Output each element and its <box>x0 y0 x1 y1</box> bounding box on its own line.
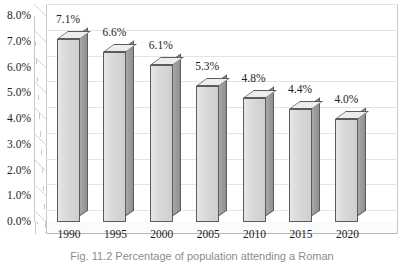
y-axis-tick-label: 6.0% <box>0 62 31 73</box>
bar-chart: 8.0%7.0%6.0%5.0%4.0%3.0%2.0%1.0%0.0% 7.1… <box>0 0 404 247</box>
y-axis-tick-label: 5.0% <box>0 87 31 98</box>
y-axis-tick-label: 8.0% <box>0 10 31 21</box>
bar-front-face <box>57 39 80 222</box>
axis-depth-tick <box>34 4 46 16</box>
axis-depth-tick <box>34 133 46 145</box>
bar-value-label: 4.0% <box>334 94 358 105</box>
bar-front-face <box>335 119 358 222</box>
bar-side-face <box>80 28 88 216</box>
axis-depth-tick <box>34 210 46 222</box>
bar-side-face <box>126 41 134 216</box>
x-axis-tick-label: 2015 <box>278 228 324 240</box>
bar-front-face <box>196 86 219 222</box>
bar-value-label: 4.4% <box>288 84 312 95</box>
axis-depth-tick <box>34 159 46 171</box>
y-axis-tick-label: 3.0% <box>0 139 31 150</box>
x-axis-tick-label: 1990 <box>46 228 92 240</box>
bar-column[interactable] <box>196 0 219 222</box>
bar-side-face <box>266 87 274 216</box>
y-axis-tick-label: 1.0% <box>0 190 31 201</box>
x-axis-tick-label: 2000 <box>139 228 185 240</box>
bar-column[interactable] <box>289 0 312 222</box>
x-axis-tick-label: 2005 <box>185 228 231 240</box>
axis-depth-tick <box>34 30 46 42</box>
bar-column[interactable] <box>150 0 173 222</box>
y-axis-tick-label: 4.0% <box>0 113 31 124</box>
y-axis-tick-label: 0.0% <box>0 216 31 227</box>
bar-front-face <box>103 52 126 222</box>
y-axis-tick-label: 7.0% <box>0 36 31 47</box>
bar-front-face <box>243 98 266 222</box>
bar-value-label: 7.1% <box>56 14 80 25</box>
axis-depth-tick <box>34 81 46 93</box>
x-axis-tick-label: 2020 <box>324 228 370 240</box>
figure-caption: Fig. 11.2 Percentage of population atten… <box>0 250 404 265</box>
bar-column[interactable] <box>57 0 80 222</box>
bar-column[interactable] <box>335 0 358 222</box>
bar-side-face <box>312 97 320 216</box>
bar-value-label: 6.1% <box>149 40 173 51</box>
figure: 8.0%7.0%6.0%5.0%4.0%3.0%2.0%1.0%0.0% 7.1… <box>0 0 404 265</box>
axis-depth-tick <box>34 184 46 196</box>
bar-column[interactable] <box>243 0 266 222</box>
y-axis-tick-label: 2.0% <box>0 165 31 176</box>
bar-side-face <box>219 74 227 216</box>
axis-depth-tick <box>34 107 46 119</box>
axis-depth-tick <box>34 56 46 68</box>
bar-value-label: 4.8% <box>242 73 266 84</box>
axis-side-wall <box>34 16 46 234</box>
bar-side-face <box>173 54 181 216</box>
bar-value-label: 5.3% <box>195 61 219 72</box>
bar-value-label: 6.6% <box>102 27 126 38</box>
bar-side-face <box>358 108 366 216</box>
x-axis-tick-label: 2010 <box>232 228 278 240</box>
bar-front-face <box>289 109 312 222</box>
x-axis-tick-label: 1995 <box>92 228 138 240</box>
bar-front-face <box>150 65 173 222</box>
